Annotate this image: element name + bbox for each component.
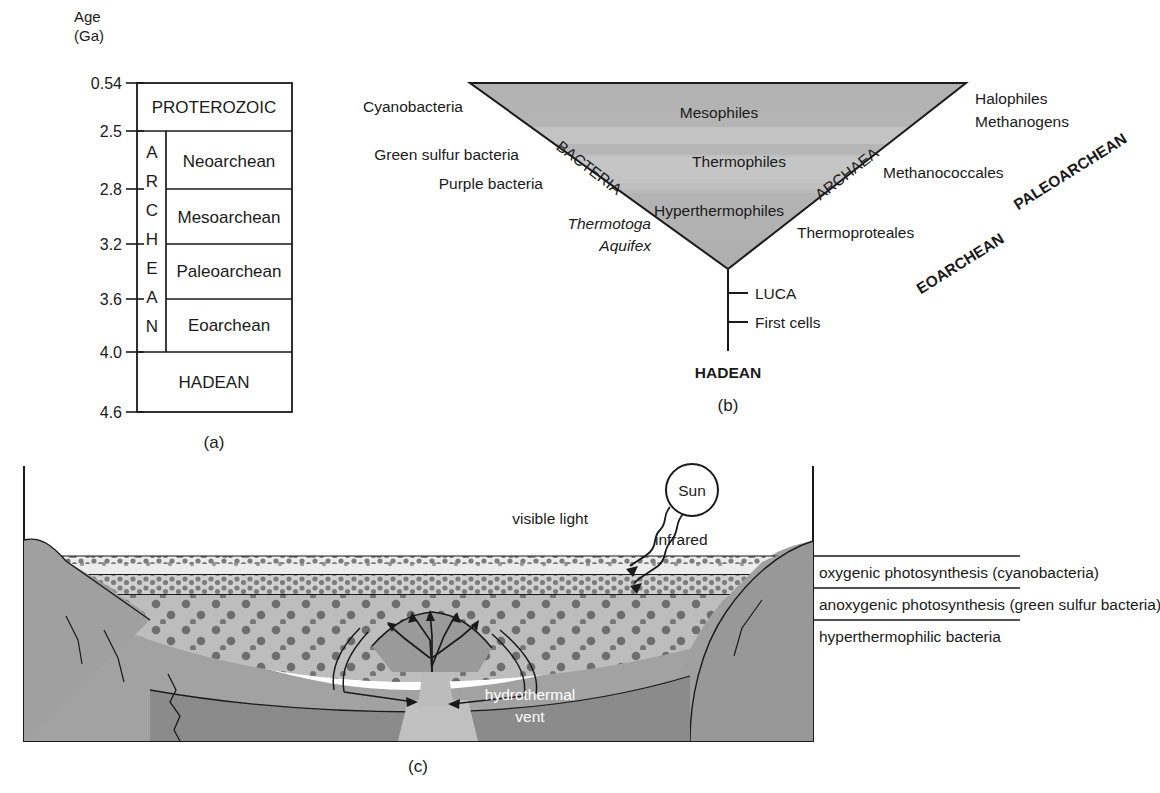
- tree-taxon-thermotoga: Thermotoga: [567, 215, 651, 232]
- panel-a-eon-proterozoic: PROTEROZOIC: [152, 98, 277, 117]
- panel-a-axis-title-line1: Age: [74, 8, 101, 25]
- tree-node-luca: LUCA: [755, 285, 797, 302]
- panel-a-tick-2: 2.8: [100, 181, 122, 198]
- panel-a-archean-vertical-label: A R C H E A N: [146, 143, 158, 336]
- tree-taxon-thermoproteales: Thermoproteales: [797, 224, 914, 241]
- panel-a-outer-box: [137, 83, 292, 412]
- archean-letter-2: C: [146, 201, 158, 220]
- panel-c-label-anoxygenic: anoxygenic photosynthesis (green sulfur …: [819, 596, 1160, 613]
- panel-c-caption: (c): [408, 757, 428, 776]
- tree-taxon-aquifex: Aquifex: [598, 237, 652, 254]
- panel-b-era-paleoarchean: PALEOARCHEAN: [1011, 130, 1130, 213]
- tree-stem: [728, 269, 748, 351]
- tree-taxon-cyanobacteria: Cyanobacteria: [363, 98, 463, 115]
- panel-c: hydrothermal vent Sun visible light infr…: [24, 464, 1160, 776]
- panel-a: Age (Ga) 0.54 2.5 2.8 3.2 3.6 4.0 4.6: [74, 8, 292, 452]
- figure-svg: Age (Ga) 0.54 2.5 2.8 3.2 3.6 4.0 4.6: [0, 0, 1160, 793]
- panel-b-caption: (b): [718, 396, 739, 415]
- panel-a-tick-3: 3.2: [100, 236, 122, 253]
- panel-a-tick-5: 4.0: [100, 344, 122, 361]
- vent-label-line2: vent: [515, 708, 545, 725]
- panel-a-tick-1: 2.5: [100, 123, 122, 140]
- panel-a-tick-marks: [126, 83, 144, 412]
- panel-c-label-hyperthermophilic: hyperthermophilic bacteria: [819, 628, 1001, 645]
- tree-node-first-cells: First cells: [755, 314, 821, 331]
- panel-a-era-eoarchean: Eoarchean: [188, 316, 270, 335]
- panel-a-axis-title-line2: (Ga): [74, 27, 104, 44]
- layer-anoxygenic-stipple: [36, 575, 806, 595]
- panel-a-era-neoarchean: Neoarchean: [183, 152, 276, 171]
- tree-taxon-purple-bacteria: Purple bacteria: [439, 175, 544, 192]
- panel-a-era-mesoarchean: Mesoarchean: [177, 208, 280, 227]
- panel-c-label-oxygenic: oxygenic photosynthesis (cyanobacteria): [819, 564, 1099, 581]
- panel-a-tick-0: 0.54: [91, 75, 122, 92]
- archean-letter-1: R: [146, 172, 158, 191]
- visible-light-label: visible light: [512, 510, 589, 527]
- panel-b-eon-hadean: HADEAN: [695, 364, 761, 381]
- panel-b: Mesophiles Thermophiles Hyperthermophile…: [363, 83, 1130, 415]
- tree-taxon-methanogens: Methanogens: [975, 113, 1069, 130]
- panel-a-caption: (a): [204, 433, 225, 452]
- archean-letter-6: N: [146, 317, 158, 336]
- figure-root: Age (Ga) 0.54 2.5 2.8 3.2 3.6 4.0 4.6: [0, 0, 1160, 793]
- tree-label-thermophiles: Thermophiles: [692, 153, 786, 170]
- tree-taxon-green-sulfur-bacteria: Green sulfur bacteria: [374, 146, 519, 163]
- panel-a-tick-6: 4.6: [100, 404, 122, 421]
- archean-letter-4: E: [146, 259, 157, 278]
- panel-a-era-paleoarchean: Paleoarchean: [177, 262, 282, 281]
- panel-b-era-eoarchean: EOARCHEAN: [913, 230, 1007, 297]
- panel-a-tick-4: 3.6: [100, 291, 122, 308]
- tree-label-mesophiles: Mesophiles: [680, 104, 759, 121]
- archean-letter-0: A: [146, 143, 158, 162]
- layer-oxygenic-topband: [24, 556, 813, 564]
- magma-chamber: [398, 700, 478, 741]
- archean-letter-3: H: [146, 230, 158, 249]
- archean-letter-5: A: [146, 288, 158, 307]
- infrared-label: infrared: [655, 531, 708, 548]
- vent-label-line1: hydrothermal: [485, 686, 575, 703]
- tree-taxon-methanococcales: Methanococcales: [883, 164, 1004, 181]
- tree-taxon-halophiles: Halophiles: [975, 90, 1048, 107]
- tree-label-hyperthermophiles: Hyperthermophiles: [654, 202, 784, 219]
- sun-label: Sun: [678, 482, 706, 499]
- panel-a-eon-hadean: HADEAN: [179, 373, 250, 392]
